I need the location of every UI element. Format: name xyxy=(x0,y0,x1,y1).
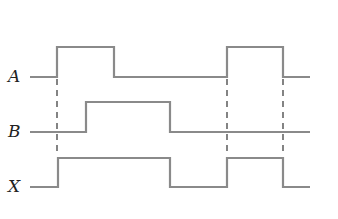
signal-label-x: X xyxy=(6,176,21,196)
signal-x: X xyxy=(6,158,310,196)
signal-label-a: A xyxy=(6,66,20,86)
signal-b: B xyxy=(7,102,310,141)
timing-diagram: A B X xyxy=(0,0,338,219)
signal-a: A xyxy=(6,47,310,86)
signal-label-b: B xyxy=(7,121,21,141)
waveform-b xyxy=(30,102,310,132)
waveform-a xyxy=(30,47,310,77)
waveform-x xyxy=(30,158,310,187)
